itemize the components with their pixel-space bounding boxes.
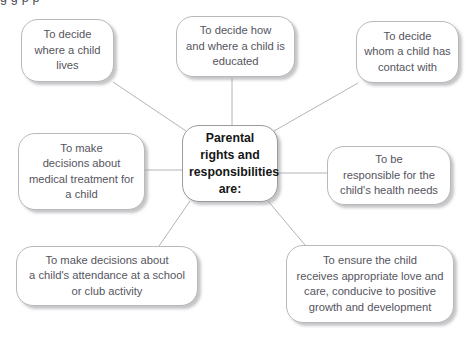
node-decide-how-where-educated[interactable]: To decide how and where a child is educa… xyxy=(176,16,295,77)
connector-line xyxy=(268,201,305,245)
node-label: To ensure the child receives appropriate… xyxy=(293,253,447,315)
node-label: To decide where a child lives xyxy=(28,27,107,74)
node-decide-contact-with[interactable]: To decide whom a child has contact with xyxy=(356,21,459,83)
connector-line xyxy=(113,82,186,131)
diagram-canvas: g g p p Parental rights and responsibili… xyxy=(0,0,470,340)
node-label: To make decisions about medical treatmen… xyxy=(25,141,138,203)
connector-line xyxy=(274,83,358,131)
node-label: To decide whom a child has contact with xyxy=(363,29,452,76)
node-decide-where-child-lives[interactable]: To decide where a child lives xyxy=(21,19,114,82)
center-node-center[interactable]: Parental rights and responsibilities are… xyxy=(182,125,278,202)
node-medical-treatment-decisions[interactable]: To make decisions about medical treatmen… xyxy=(18,133,145,210)
node-label: To be responsible for the child's health… xyxy=(334,152,444,199)
node-label: To decide how and where a child is educa… xyxy=(183,23,288,70)
node-responsible-health-needs[interactable]: To be responsible for the child's health… xyxy=(327,146,451,205)
connector-line xyxy=(159,201,190,246)
node-ensure-love-and-care[interactable]: To ensure the child receives appropriate… xyxy=(286,245,454,323)
node-school-club-attendance[interactable]: To make decisions about a child's attend… xyxy=(16,246,198,306)
node-label: To make decisions about a child's attend… xyxy=(23,253,191,300)
node-label: Parental rights and responsibilities are… xyxy=(189,130,271,198)
